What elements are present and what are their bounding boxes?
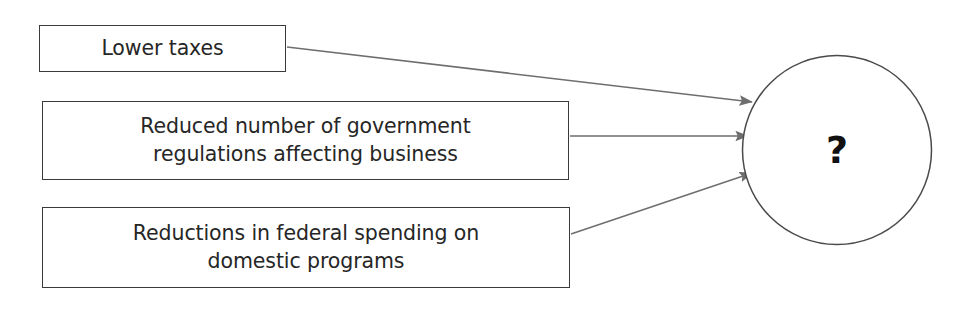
cause-box-regulations: Reduced number of government regulations… (42, 101, 569, 180)
diagram-canvas: Lower taxes Reduced number of government… (0, 0, 962, 309)
connector-lower-taxes-to-outcome (287, 47, 752, 102)
cause-box-label: Reductions in federal spending on domest… (125, 220, 487, 275)
connector-spending-to-outcome (571, 173, 752, 234)
cause-box-spending: Reductions in federal spending on domest… (42, 207, 570, 288)
cause-box-label: Lower taxes (93, 35, 231, 62)
cause-box-lower-taxes: Lower taxes (39, 25, 286, 72)
outcome-circle-node: ? (741, 54, 933, 246)
outcome-question-mark-label: ? (741, 54, 933, 246)
cause-box-label: Reduced number of government regulations… (132, 113, 478, 168)
